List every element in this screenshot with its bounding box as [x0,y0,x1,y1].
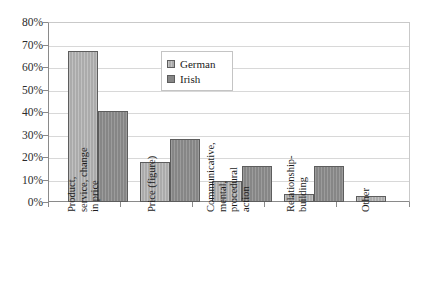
y-axis-tick-label: 70% [0,40,43,52]
y-axis-tick-label: 50% [0,85,43,97]
x-axis-tick-mark [409,202,410,207]
legend-entry-german: German [167,56,226,71]
legend-swatch-irish-icon [167,75,175,83]
x-axis-category-label: Relationship- building [285,155,308,212]
bar-chart: 80% 70% 60% 50% 40% 30% 20% 10% 0% [0,0,427,306]
x-axis-tick-mark [336,202,337,207]
y-axis-tick-label: 30% [0,130,43,142]
category-label-line: procedural [228,142,240,212]
category-label-line: action [240,142,252,212]
x-axis-category-label: Communicative, mental, procedural action [205,142,251,212]
x-axis-tick-mark [48,202,49,207]
x-axis-tick-mark [120,202,121,207]
x-axis-category-label: Product, service, change in price [66,147,101,212]
bar-group [356,22,422,202]
x-axis-tick-mark [264,202,265,207]
legend-label: German [180,58,215,70]
category-label-line: Price (figure) [146,156,158,212]
legend-entry-irish: Irish [167,71,226,86]
category-label-line: mental, [217,142,229,212]
y-axis-tick-label: 40% [0,107,43,119]
x-axis-category-label: Price (figure) [146,156,158,212]
category-label-line: Other [360,188,372,212]
x-axis-category-label: Other [360,188,372,212]
y-axis-tick-label: 0% [0,197,43,209]
y-axis-tick-label: 80% [0,17,43,29]
y-axis-tick-label: 10% [0,175,43,187]
bar-irish [170,139,200,202]
category-label-line: in price [89,147,101,212]
legend-label: Irish [180,73,200,85]
category-label-line: Product, [66,147,78,212]
bar-irish [98,111,128,202]
y-axis-tick-label: 60% [0,62,43,74]
legend-swatch-german-icon [167,60,175,68]
bar-irish [314,166,344,202]
y-axis-tick-label: 20% [0,152,43,164]
category-label-line: Relationship- [285,155,297,212]
category-label-line: Communicative, [205,142,217,212]
x-axis-tick-mark [192,202,193,207]
category-label-line: service, change [78,147,90,212]
chart-legend: German Irish [161,51,233,91]
category-label-line: building [297,155,309,212]
